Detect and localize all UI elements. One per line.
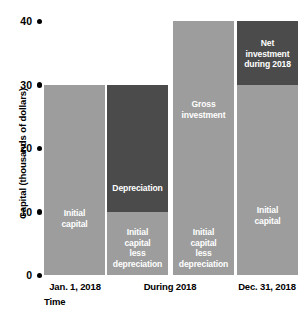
bar-dec-31-2018: Initial capitalNet investment during 201… xyxy=(237,21,298,275)
segment-initial-capital-less-depreciation-2: Initial capital less depreciation xyxy=(173,212,234,276)
segment-label-initial-capital-3: Initial capital xyxy=(252,205,282,226)
bar-during-2018-gross-investment: Initial capital less depreciationGross i… xyxy=(173,21,234,275)
segment-net-investment-during-2018: Net investment during 2018 xyxy=(237,21,298,85)
segment-label-initial-capital-less-depreciation: Initial capital less depreciation xyxy=(111,227,164,269)
x-category-label: Dec. 31, 2018 xyxy=(207,281,306,292)
segment-depreciation: Depreciation xyxy=(107,85,168,212)
segment-label-gross-investment: Gross investment xyxy=(180,99,228,120)
bar-during-2018-depreciation: Initial capital less depreciationDepreci… xyxy=(107,85,168,276)
plot-area: Initial capitalInitial capital less depr… xyxy=(0,0,306,313)
x-axis-title: Time xyxy=(44,296,65,307)
segment-label-net-investment-during-2018: Net investment during 2018 xyxy=(242,38,293,70)
segment-initial-capital-less-depreciation: Initial capital less depreciation xyxy=(107,212,168,276)
segment-label-initial-capital: Initial capital xyxy=(59,208,89,229)
segment-initial-capital-3: Initial capital xyxy=(237,85,298,276)
segment-label-initial-capital-less-depreciation-2: Initial capital less depreciation xyxy=(177,227,230,269)
segment-label-depreciation: Depreciation xyxy=(110,183,164,194)
capital-bar-chart: Capital (thousands of dollars) 403020100… xyxy=(0,0,306,313)
segment-initial-capital: Initial capital xyxy=(44,85,105,276)
segment-gross-investment: Gross investment xyxy=(173,21,234,212)
bar-jan-1-2018: Initial capital xyxy=(44,85,105,276)
